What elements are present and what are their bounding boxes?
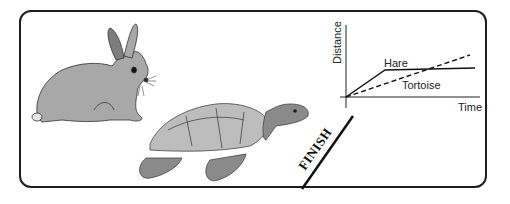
illustration-canvas: FINISH Hare Tortoise Time Distance xyxy=(0,0,510,204)
tortoise-illustration xyxy=(140,104,309,181)
y-axis-label: Distance xyxy=(331,21,343,64)
hare-illustration xyxy=(32,24,156,122)
distance-time-chart: Hare Tortoise Time Distance xyxy=(331,21,482,113)
x-axis-label: Time xyxy=(458,101,482,113)
hare-label: Hare xyxy=(384,57,408,69)
tortoise-label: Tortoise xyxy=(402,79,441,91)
finish-line: FINISH xyxy=(295,116,353,189)
